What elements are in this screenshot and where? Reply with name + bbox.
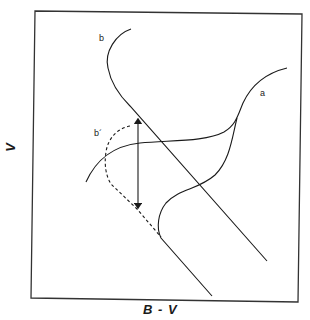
plot-frame <box>31 11 302 302</box>
y-axis-label: V <box>3 143 18 152</box>
curve-a-upper <box>86 68 287 182</box>
x-axis-label: B - V <box>143 302 178 317</box>
curve-b <box>107 29 267 261</box>
label-curve-b-prime: b´ <box>94 128 102 138</box>
curve-a-lower <box>158 118 237 296</box>
curve-b-prime <box>105 126 161 237</box>
label-curve-b: b <box>99 33 104 43</box>
label-curve-a: a <box>260 88 265 98</box>
diagram-canvas <box>0 0 310 320</box>
